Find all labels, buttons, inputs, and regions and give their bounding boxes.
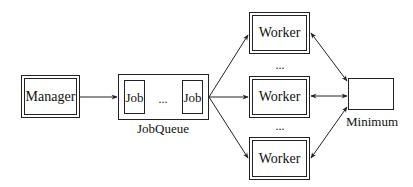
- job-node-2: Job: [182, 80, 203, 114]
- worker-node-3: Worker: [249, 137, 310, 180]
- worker-node-2: Worker: [249, 76, 310, 118]
- manager-label: Manager: [26, 90, 76, 104]
- worker-label: Worker: [259, 26, 301, 40]
- edge-worker-1-minimum: [311, 33, 347, 81]
- edge-jobqueue-to-worker-1: [209, 35, 248, 97]
- edge-jobqueue-to-worker-3: [209, 97, 248, 158]
- worker-ellipsis-1: ...: [276, 59, 285, 71]
- minimum-node: [348, 78, 394, 110]
- job-label: Job: [183, 91, 201, 104]
- worker-ellipsis-2: ...: [276, 120, 285, 132]
- worker-label: Worker: [259, 90, 301, 104]
- job-label: Job: [125, 91, 143, 104]
- minimum-caption: Minimum: [346, 115, 398, 128]
- diagram-canvas: Manager Job ... Job JobQueue Worker ... …: [0, 0, 413, 187]
- jobqueue-caption: JobQueue: [137, 122, 189, 135]
- manager-node: Manager: [21, 75, 80, 118]
- job-ellipsis: ...: [159, 93, 168, 105]
- edge-worker-3-minimum: [311, 107, 347, 158]
- worker-node-1: Worker: [249, 12, 310, 54]
- worker-label: Worker: [259, 152, 301, 166]
- job-node-1: Job: [124, 80, 145, 114]
